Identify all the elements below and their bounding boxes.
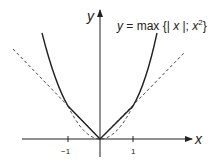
x-axis-label: x bbox=[194, 131, 203, 147]
abs-x-dashed-line bbox=[13, 49, 185, 139]
tick-label-neg1: −1 bbox=[61, 147, 71, 156]
function-graph: y x −1 1 y = max {| x |; x2} bbox=[0, 0, 215, 163]
y-axis-label: y bbox=[86, 8, 95, 24]
formula-label: y = max {| x |; x2} bbox=[116, 18, 207, 33]
tick-label-pos1: 1 bbox=[131, 147, 136, 156]
